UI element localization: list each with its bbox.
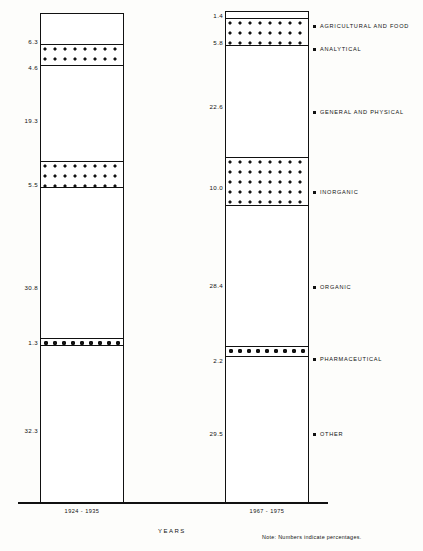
axis-tick-right-inner bbox=[225, 470, 226, 503]
value-label-right-analytical: 5.8 bbox=[197, 40, 223, 46]
legend-label: OTHER bbox=[320, 432, 343, 438]
value-label-right-organic: 28.4 bbox=[197, 283, 223, 289]
legend-item-inorganic: INORGANIC bbox=[313, 190, 358, 196]
bar-segment-inorganic bbox=[226, 157, 308, 206]
bar-segment-organic bbox=[41, 188, 123, 339]
bar-segment-agricultural-and-food bbox=[226, 11, 308, 18]
value-label-left-analytical: 4.6 bbox=[12, 65, 38, 71]
bar-segment-analytical bbox=[226, 18, 308, 47]
value-label-right-general-and-physical: 22.6 bbox=[197, 104, 223, 110]
legend-bullet-icon bbox=[313, 111, 316, 114]
value-label-right-pharmaceutical: 2.2 bbox=[197, 358, 223, 364]
legend-item-organic: ORGANIC bbox=[313, 285, 351, 291]
value-label-left-agricultural-and-food: 6.3 bbox=[12, 39, 38, 45]
legend-label: GENERAL AND PHYSICAL bbox=[320, 110, 404, 116]
bar-segment-agricultural-and-food bbox=[41, 13, 123, 44]
legend-label: AGRICULTURAL AND FOOD bbox=[320, 24, 409, 30]
x-axis-baseline bbox=[18, 502, 328, 504]
bar-segment-organic bbox=[226, 206, 308, 345]
value-label-left-organic: 30.8 bbox=[12, 285, 38, 291]
bar-segment-inorganic bbox=[41, 161, 123, 188]
legend-label: PHARMACEUTICAL bbox=[320, 357, 382, 363]
legend-bullet-icon bbox=[313, 433, 316, 436]
axis-tick-left-inner bbox=[123, 470, 124, 503]
bar-segment-analytical bbox=[41, 44, 123, 67]
bar-segment-general-and-physical bbox=[226, 46, 308, 157]
value-label-left-general-and-physical: 19.3 bbox=[12, 118, 38, 124]
legend-bullet-icon bbox=[313, 25, 316, 28]
legend-bullet-icon bbox=[313, 191, 316, 194]
value-label-right-inorganic: 10.0 bbox=[197, 185, 223, 191]
bar-segment-other bbox=[226, 357, 308, 502]
value-label-right-other: 29.5 bbox=[197, 431, 223, 437]
bar-1967-1975 bbox=[225, 11, 309, 502]
value-label-left-pharmaceutical: 1.3 bbox=[12, 340, 38, 346]
legend-item-analytical: ANALYTICAL bbox=[313, 47, 361, 53]
bar-segment-general-and-physical bbox=[41, 66, 123, 160]
bar-segment-pharmaceutical bbox=[41, 338, 123, 346]
legend-bullet-icon bbox=[313, 48, 316, 51]
axis-tick-label-1967-1975: 1967 - 1975 bbox=[232, 508, 302, 514]
axis-tick-label-1924-1935: 1924 - 1935 bbox=[47, 508, 117, 514]
legend-item-pharmaceutical: PHARMACEUTICAL bbox=[313, 357, 382, 363]
legend-item-other: OTHER bbox=[313, 432, 343, 438]
value-label-left-other: 32.3 bbox=[12, 428, 38, 434]
bar-segment-pharmaceutical bbox=[226, 346, 308, 357]
legend-label: ANALYTICAL bbox=[320, 47, 361, 53]
x-axis-title: YEARS bbox=[158, 528, 186, 534]
bar-1924-1935 bbox=[40, 13, 124, 502]
stacked-bar-chart: 6.3 4.6 19.3 5.5 30.8 1.3 32.3 1.4 5.8 2… bbox=[0, 0, 423, 551]
legend-item-agricultural-and-food: AGRICULTURAL AND FOOD bbox=[313, 24, 409, 30]
value-label-right-agricultural-and-food: 1.4 bbox=[197, 13, 223, 19]
value-label-left-inorganic: 5.5 bbox=[12, 182, 38, 188]
legend-label: INORGANIC bbox=[320, 190, 358, 196]
bar-segment-other bbox=[41, 346, 123, 502]
legend-bullet-icon bbox=[313, 286, 316, 289]
legend-label: ORGANIC bbox=[320, 285, 351, 291]
legend-bullet-icon bbox=[313, 358, 316, 361]
chart-footnote: Note: Numbers indicate percentages. bbox=[262, 534, 362, 540]
legend-item-general-and-physical: GENERAL AND PHYSICAL bbox=[313, 110, 404, 116]
